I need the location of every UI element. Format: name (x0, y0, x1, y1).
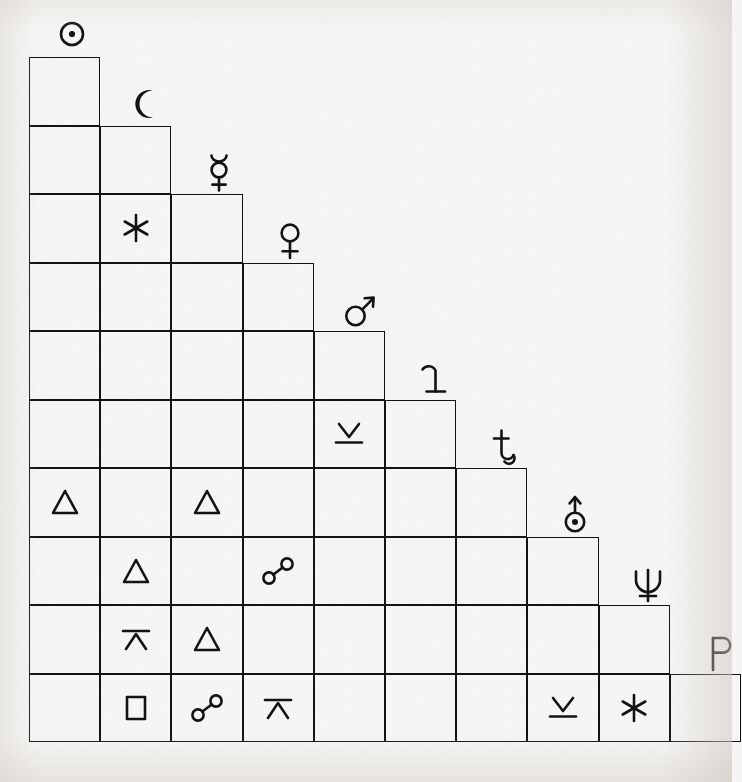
aspect-cell-saturn-moon[interactable] (100, 468, 171, 537)
neptune-icon (626, 564, 670, 606)
aspect-cell-mars-mars[interactable] (314, 331, 385, 400)
opposition-icon (171, 674, 242, 743)
quincunx-icon (314, 400, 385, 469)
aspect-cell-uranus-uranus[interactable] (527, 537, 598, 606)
quincunx-inverted-icon (100, 605, 171, 674)
trine-icon (100, 537, 171, 606)
aspect-cell-neptune-neptune[interactable] (599, 605, 670, 674)
aspect-cell-jupiter-jupiter[interactable] (385, 400, 456, 469)
aspect-cell-venus-sun[interactable] (29, 263, 100, 332)
aspect-cell-pluto-jupiter[interactable] (385, 674, 456, 743)
aspect-cell-mars-mercury[interactable] (171, 331, 242, 400)
aspect-cell-mars-sun[interactable] (29, 331, 100, 400)
trine-icon (171, 605, 242, 674)
trine-icon (29, 468, 100, 537)
aspect-cell-sun-sun[interactable] (29, 57, 100, 126)
quincunx-inverted-icon (243, 674, 314, 743)
aspect-cell-moon-sun[interactable] (29, 126, 100, 195)
aspect-cell-pluto-saturn[interactable] (456, 674, 527, 743)
aspect-cell-mars-moon[interactable] (100, 331, 171, 400)
sextile-icon (100, 194, 171, 263)
aspect-cell-neptune-mars[interactable] (314, 605, 385, 674)
aspect-cell-pluto-mars[interactable] (314, 674, 385, 743)
mars-icon (338, 290, 382, 332)
aspect-cell-mercury-mercury[interactable] (171, 194, 242, 263)
quincunx-icon (527, 674, 598, 743)
aspect-cell-uranus-mercury[interactable] (171, 537, 242, 606)
aspect-cell-neptune-sun[interactable] (29, 605, 100, 674)
aspect-cell-jupiter-moon[interactable] (100, 400, 171, 469)
aspect-cell-pluto-pluto[interactable] (670, 674, 741, 743)
aspect-cell-venus-mercury[interactable] (171, 263, 242, 332)
venus-icon (268, 220, 312, 262)
aspect-cell-mercury-sun[interactable] (29, 194, 100, 263)
aspect-cell-venus-moon[interactable] (100, 263, 171, 332)
aspect-cell-neptune-jupiter[interactable] (385, 605, 456, 674)
sextile-icon (599, 674, 670, 743)
aspect-cell-saturn-venus[interactable] (243, 468, 314, 537)
pluto-icon (698, 632, 742, 674)
trine-icon (171, 468, 242, 537)
aspect-cell-moon-moon[interactable] (100, 126, 171, 195)
aspect-cell-saturn-jupiter[interactable] (385, 468, 456, 537)
aspect-cell-pluto-sun[interactable] (29, 674, 100, 743)
opposition-icon (243, 537, 314, 606)
saturn-icon (482, 427, 526, 469)
aspect-cell-saturn-mars[interactable] (314, 468, 385, 537)
mercury-icon (197, 152, 241, 194)
aspect-cell-saturn-saturn[interactable] (456, 468, 527, 537)
aspect-cell-neptune-venus[interactable] (243, 605, 314, 674)
aspect-cell-jupiter-sun[interactable] (29, 400, 100, 469)
aspect-cell-jupiter-mercury[interactable] (171, 400, 242, 469)
aspect-cell-neptune-uranus[interactable] (527, 605, 598, 674)
jupiter-icon (412, 358, 456, 400)
aspect-cell-uranus-saturn[interactable] (456, 537, 527, 606)
square-icon (100, 674, 171, 743)
uranus-icon (553, 494, 597, 536)
aspect-cell-uranus-jupiter[interactable] (385, 537, 456, 606)
aspect-cell-uranus-mars[interactable] (314, 537, 385, 606)
aspect-cell-jupiter-venus[interactable] (243, 400, 314, 469)
aspect-cell-neptune-saturn[interactable] (456, 605, 527, 674)
aspect-cell-uranus-sun[interactable] (29, 537, 100, 606)
moon-icon (124, 83, 168, 125)
aspect-cell-venus-venus[interactable] (243, 263, 314, 332)
aspect-cell-mars-venus[interactable] (243, 331, 314, 400)
sun-icon (50, 13, 94, 55)
